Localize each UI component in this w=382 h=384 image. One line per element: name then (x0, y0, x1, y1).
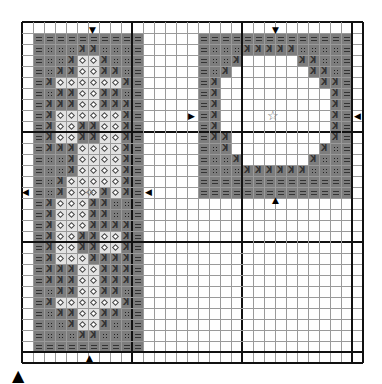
left-motif-stitch: K (110, 253, 121, 264)
four-dots-symbol-icon (322, 47, 328, 53)
diamond-symbol-icon (112, 233, 119, 240)
four-dots-symbol-icon (58, 322, 64, 328)
k-symbol-icon: K (211, 79, 217, 87)
left-motif-stitch (44, 319, 55, 330)
left-motif-stitch (132, 242, 143, 253)
equals-symbol-icon (47, 37, 53, 41)
right-frame-stitch (198, 55, 209, 66)
four-dots-symbol-icon (47, 333, 53, 339)
right-frame-stitch (209, 176, 220, 187)
left-motif-stitch (55, 132, 66, 143)
left-motif-stitch (99, 242, 110, 253)
k-symbol-icon: K (46, 79, 52, 87)
equals-symbol-icon (311, 180, 317, 184)
equals-symbol-icon (245, 191, 251, 195)
left-motif-stitch: K (44, 143, 55, 154)
diamond-symbol-icon (101, 134, 108, 141)
left-motif-stitch (132, 99, 143, 110)
grid-line (22, 297, 363, 298)
right-frame-stitch (198, 99, 209, 110)
k-symbol-icon: K (112, 68, 118, 76)
equals-symbol-icon (135, 70, 141, 74)
diamond-symbol-icon (68, 299, 75, 306)
k-symbol-icon: K (123, 112, 129, 120)
grid-line (308, 22, 309, 363)
left-motif-stitch: K (99, 275, 110, 286)
left-motif-stitch (77, 209, 88, 220)
equals-symbol-icon (135, 301, 141, 305)
k-symbol-icon: K (123, 156, 129, 164)
left-motif-stitch (88, 99, 99, 110)
k-symbol-icon: K (46, 101, 52, 109)
left-motif-stitch (44, 55, 55, 66)
k-symbol-icon: K (299, 57, 305, 65)
k-symbol-icon: K (57, 288, 63, 296)
four-dots-symbol-icon (223, 168, 229, 174)
equals-symbol-icon (300, 191, 306, 195)
left-motif-stitch (88, 275, 99, 286)
grid-line (22, 187, 363, 188)
k-symbol-icon: K (68, 145, 74, 153)
diamond-symbol-icon (101, 178, 108, 185)
right-frame-stitch (330, 33, 341, 44)
right-frame-stitch (319, 176, 330, 187)
right-frame-stitch (308, 33, 319, 44)
equals-symbol-icon (135, 246, 141, 250)
grid-line (99, 22, 100, 363)
k-symbol-icon: K (79, 123, 85, 131)
right-frame-stitch (220, 44, 231, 55)
equals-symbol-icon (344, 114, 350, 118)
grid-line (22, 253, 363, 254)
k-symbol-icon: K (57, 68, 63, 76)
right-frame-stitch (330, 165, 341, 176)
left-motif-stitch (44, 330, 55, 341)
k-symbol-icon: K (79, 244, 85, 252)
right-frame-stitch (198, 44, 209, 55)
k-symbol-icon: K (46, 134, 52, 142)
diamond-symbol-icon (90, 266, 97, 273)
left-motif-stitch: K (77, 132, 88, 143)
grid-line (22, 198, 363, 199)
left-motif-stitch (33, 77, 44, 88)
right-frame-stitch (308, 176, 319, 187)
four-dots-symbol-icon (47, 322, 53, 328)
equals-symbol-icon (311, 37, 317, 41)
grid-line (22, 99, 363, 100)
diamond-symbol-icon (90, 277, 97, 284)
left-motif-stitch (33, 253, 44, 264)
left-motif-stitch (33, 275, 44, 286)
left-motif-stitch (88, 88, 99, 99)
k-symbol-icon: K (68, 167, 74, 175)
grid-line (55, 22, 56, 363)
four-dots-symbol-icon (124, 91, 130, 97)
right-frame-stitch (220, 187, 231, 198)
grid-line (209, 22, 210, 363)
left-motif-stitch (55, 330, 66, 341)
grid-line (22, 55, 363, 56)
diamond-symbol-icon (79, 321, 86, 328)
diamond-symbol-icon (112, 244, 119, 251)
four-dots-symbol-icon (223, 47, 229, 53)
k-symbol-icon: K (101, 211, 107, 219)
equals-symbol-icon (36, 257, 42, 261)
right-frame-stitch (297, 33, 308, 44)
left-motif-stitch (99, 143, 110, 154)
equals-symbol-icon (201, 169, 207, 173)
four-dots-symbol-icon (223, 157, 229, 163)
left-motif-stitch (77, 253, 88, 264)
diamond-symbol-icon (79, 145, 86, 152)
equals-symbol-icon (135, 81, 141, 85)
left-motif-stitch (132, 88, 143, 99)
k-symbol-icon: K (299, 167, 305, 175)
grid-line (22, 319, 363, 320)
grid-line (66, 22, 67, 363)
left-motif-stitch (55, 44, 66, 55)
left-motif-stitch (110, 143, 121, 154)
right-frame-stitch (242, 33, 253, 44)
equals-symbol-icon (201, 158, 207, 162)
k-symbol-icon: K (101, 321, 107, 329)
k-symbol-icon: K (101, 57, 107, 65)
four-dots-symbol-icon (124, 47, 130, 53)
four-dots-symbol-icon (234, 47, 240, 53)
equals-symbol-icon (113, 345, 119, 349)
